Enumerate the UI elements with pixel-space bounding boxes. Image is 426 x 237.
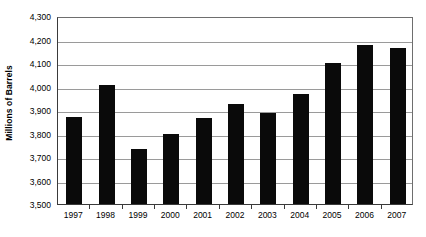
x-axis-tick-mark [284, 205, 285, 209]
y-axis-tick-label: 4,200 [30, 36, 51, 46]
bar-2004 [293, 94, 309, 204]
x-axis-tick-mark [154, 205, 155, 209]
x-axis-tick-labels: 1997199819992000200120022003200420052006… [57, 210, 413, 226]
plot-area [57, 17, 413, 205]
bar-1999 [131, 149, 147, 204]
y-axis-tick-label: 3,800 [30, 130, 51, 140]
y-axis-tick-label: 3,600 [30, 177, 51, 187]
x-axis-tick-label: 2007 [387, 210, 406, 220]
bar-2005 [325, 63, 341, 204]
bar-2000 [163, 134, 179, 205]
x-axis-tick-label: 2005 [323, 210, 342, 220]
bar-2003 [260, 113, 276, 204]
bar-1997 [66, 117, 82, 204]
x-axis-tick-mark [122, 205, 123, 209]
x-axis-tick-mark [348, 205, 349, 209]
x-axis-tick-marks [57, 205, 413, 209]
x-axis-tick-mark [316, 205, 317, 209]
y-axis-tick-label: 4,100 [30, 59, 51, 69]
x-axis-tick-mark [381, 205, 382, 209]
y-axis-title: Millions of Barrels [0, 0, 18, 205]
y-axis-title-label: Millions of Barrels [4, 65, 14, 141]
bar-2006 [357, 45, 373, 204]
y-axis-tick-labels: 3,5003,6003,7003,8003,9004,0004,1004,200… [18, 17, 54, 205]
x-axis-tick-label: 1997 [64, 210, 83, 220]
x-axis-tick-label: 1999 [128, 210, 147, 220]
y-axis-tick-label: 4,000 [30, 83, 51, 93]
bar-chart-figure: Millions of Barrels 3,5003,6003,7003,800… [0, 0, 426, 237]
bar-2001 [196, 118, 212, 204]
y-axis-tick-label: 3,900 [30, 106, 51, 116]
x-axis-tick-label: 2002 [226, 210, 245, 220]
x-axis-tick-label: 2003 [258, 210, 277, 220]
bar-2002 [228, 104, 244, 204]
x-axis-tick-mark [219, 205, 220, 209]
bar-1998 [99, 85, 115, 204]
x-axis-tick-mark [186, 205, 187, 209]
x-axis-tick-label: 2006 [355, 210, 374, 220]
y-axis-tick-label: 4,300 [30, 12, 51, 22]
y-axis-tick-label: 3,500 [30, 200, 51, 210]
bars-layer [58, 18, 412, 204]
x-axis-tick-label: 2000 [161, 210, 180, 220]
x-axis-tick-label: 2004 [290, 210, 309, 220]
x-axis-tick-mark [89, 205, 90, 209]
bar-2007 [390, 48, 406, 204]
x-axis-tick-label: 2001 [193, 210, 212, 220]
x-axis-tick-mark [251, 205, 252, 209]
y-axis-tick-label: 3,700 [30, 153, 51, 163]
x-axis-tick-label: 1998 [96, 210, 115, 220]
